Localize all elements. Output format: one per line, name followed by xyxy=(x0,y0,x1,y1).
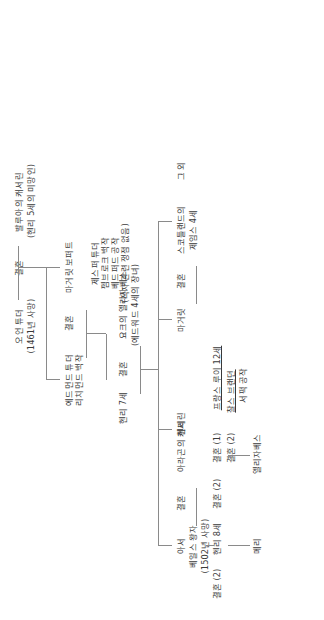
node-charles-brandon-l2: 서퍽 공작 xyxy=(238,356,248,414)
connector-henryviii-up xyxy=(206,545,214,546)
marriage-label-henryviii-2b: 결혼 (2) xyxy=(212,472,222,516)
node-others-name: 그 외 xyxy=(176,154,186,188)
connector-elizabeth-down xyxy=(228,455,250,456)
node-jasper-tudor-l1: 제스퍼 튜더 xyxy=(90,228,100,298)
node-henry-viii-label: 헨리 8세 xyxy=(212,516,222,562)
node-catherine-valois-detail: (헨리 5세의 미망인) xyxy=(26,154,36,248)
connector-margaret-stem xyxy=(158,319,172,320)
node-arthur-death: (1502년 사망) xyxy=(200,506,210,586)
node-elizabeth-i-name: 엘리자베스 xyxy=(252,422,262,486)
connector-gen3-sibling-bar xyxy=(158,222,159,546)
connector-gen1-drop xyxy=(18,267,46,268)
marriage-label-arthur: 결혼 xyxy=(176,490,186,516)
marriage-label-mary-1: 결혼 (1) xyxy=(212,426,222,470)
marriage-label-margaret: 결혼 xyxy=(176,268,186,294)
family-tree-canvas: 오언 튜더 (1461년 사망) 결혼 발루아의 캐서린 (헨리 5세의 미망인… xyxy=(0,0,324,620)
node-elizabeth-york-l1: 요크의 엘리자베스 xyxy=(118,260,128,350)
connector-arthur-catherine xyxy=(196,488,197,526)
node-charles-brandon-l1: 찰스 브랜던 xyxy=(226,360,236,422)
marriage-label-owen: 결혼 xyxy=(14,254,24,282)
node-henry-under-bar: 헨리 xyxy=(176,408,186,448)
node-james-iv-l2: 제임스 4세 xyxy=(188,196,198,264)
node-henry-vii-name: 헨리 7세 xyxy=(118,388,128,428)
connector-others-stem xyxy=(158,221,172,222)
connector-edmund-margaret xyxy=(86,310,87,358)
node-owen-tudor-detail: (1461년 사망) xyxy=(26,294,36,358)
connector-henryvii-elizabeth xyxy=(140,346,141,394)
connector-margaret-james xyxy=(196,266,197,304)
connector-gen3-drop xyxy=(140,369,158,370)
marriage-label-edmund: 결혼 xyxy=(64,310,74,336)
rotated-diagram-wrapper: 오언 튜더 (1461년 사망) 결혼 발루아의 캐서린 (헨리 5세의 미망인… xyxy=(0,0,324,620)
marriage-label-henryviii-2a: 결혼 (2) xyxy=(212,562,222,606)
connector-gen2-drop xyxy=(86,333,106,334)
connector-mary-down xyxy=(228,545,250,546)
connector-jasper-stem xyxy=(46,267,60,268)
marriage-label-henry-vii: 결혼 xyxy=(118,356,128,382)
connector-gen1-sibling-bar xyxy=(46,268,47,380)
node-edmund-tudor-line1: 에드먼드 튜더 xyxy=(64,344,74,416)
node-owen-tudor-name: 오언 튜더 xyxy=(14,300,24,352)
connector-henryviii-stem xyxy=(158,429,172,430)
node-mary-name: 메리 xyxy=(252,528,262,564)
connector-edmund-stem xyxy=(46,379,60,380)
node-edmund-tudor-line2: 리치먼드 백작 xyxy=(74,344,84,416)
marriage-label-mary-2: 결혼 (2) xyxy=(226,426,236,470)
node-elizabeth-york-l2: (에드워드 4세의 장녀) xyxy=(130,252,140,358)
node-arthur-name: 아서 xyxy=(176,528,186,564)
node-margaret-tudor-name: 마거릿 xyxy=(176,294,186,346)
node-jasper-tudor-l2: 펨브로크 백작 xyxy=(100,228,110,298)
node-catherine-valois-name: 발루아의 캐서린 xyxy=(14,162,24,242)
node-james-iv-l1: 스코틀랜드의 xyxy=(176,196,186,264)
connector-owen-catherine xyxy=(18,246,19,300)
node-louis-xii-name: 프랑스 루이 12세 xyxy=(212,332,222,424)
connector-gen2-bar xyxy=(106,334,107,380)
connector-arthur-stem xyxy=(158,545,172,546)
node-margaret-beaufort-name: 마거릿 보퍼트 xyxy=(64,232,74,302)
